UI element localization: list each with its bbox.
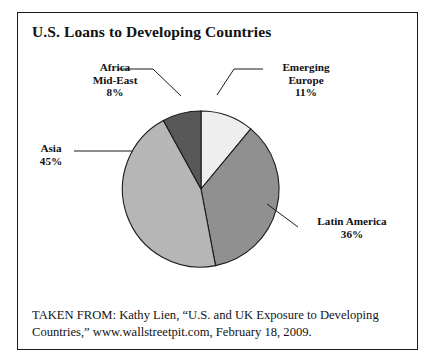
leader-line-emerging-europe: [217, 69, 263, 95]
asia-label-name: Asia: [24, 142, 78, 155]
africa-label-line2: Mid-East: [77, 74, 153, 87]
pie-chart: Africa Mid-East 8% Emerging Europe 11% A…: [18, 47, 416, 297]
latin-label-percent: 36%: [300, 228, 404, 241]
latin-label-name: Latin America: [300, 215, 404, 228]
africa-label-percent: 8%: [77, 86, 153, 99]
slice-label-latin-america: Latin America 36%: [300, 215, 404, 240]
emerging-label-line2: Europe: [267, 74, 345, 87]
slice-label-emerging-europe: Emerging Europe 11%: [267, 61, 345, 99]
asia-label-percent: 45%: [24, 155, 78, 168]
emerging-label-line1: Emerging: [267, 61, 345, 74]
africa-label-line1: Africa: [77, 61, 153, 74]
scan-top-edge: [0, 0, 435, 11]
figure-caption: TAKEN FROM: Kathy Lien, “U.S. and UK Exp…: [32, 307, 402, 341]
figure-frame: U.S. Loans to Developing Countries Afric…: [17, 12, 418, 350]
emerging-label-percent: 11%: [267, 86, 345, 99]
slice-label-asia: Asia 45%: [24, 142, 78, 167]
slice-label-africa-mid-east: Africa Mid-East 8%: [77, 61, 153, 99]
page-title: U.S. Loans to Developing Countries: [32, 23, 271, 41]
